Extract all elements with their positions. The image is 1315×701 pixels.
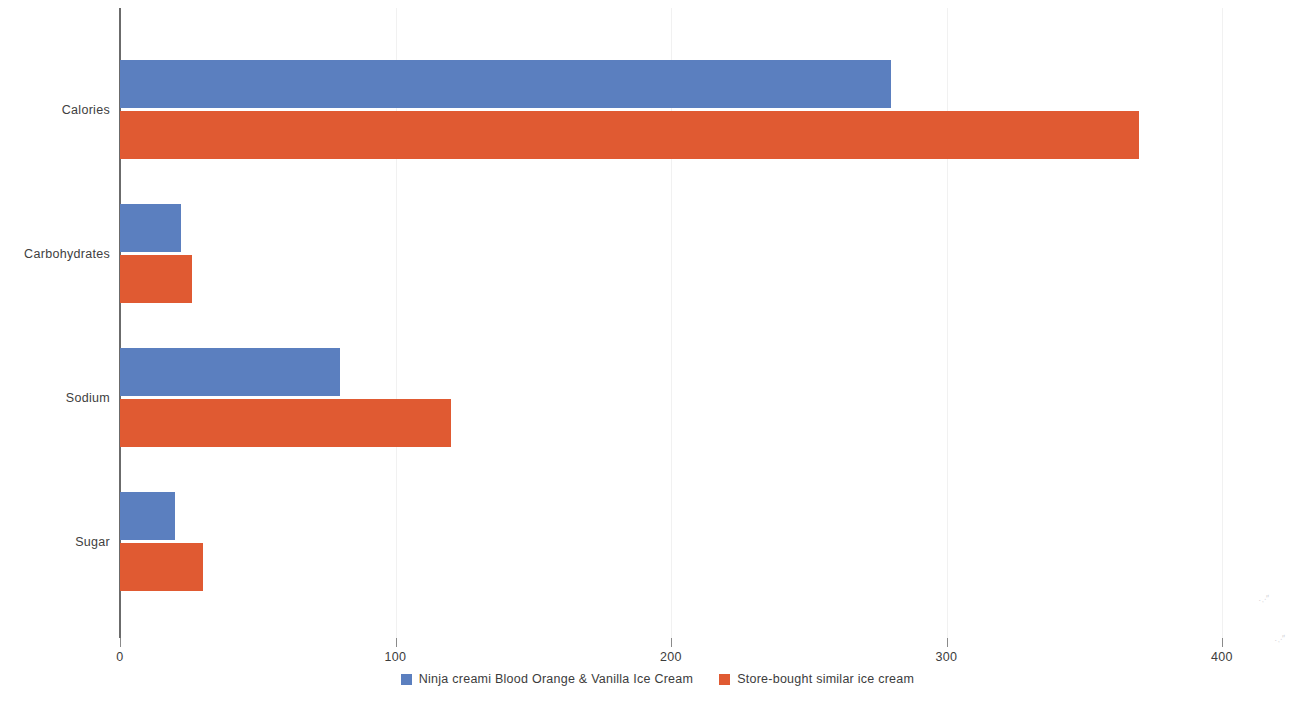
bar-carbohydrates-series2 xyxy=(120,255,192,303)
bar-chart: CaloriesCarbohydratesSodiumSugar 0100200… xyxy=(0,0,1315,701)
legend-label: Store-bought similar ice cream xyxy=(737,672,914,686)
x-axis-tick xyxy=(671,638,672,647)
bar-carbohydrates-series1 xyxy=(120,204,181,252)
legend-swatch-icon xyxy=(401,674,412,685)
x-axis: 0100200300400 xyxy=(120,638,1315,668)
x-axis-tick-label: 400 xyxy=(1211,650,1233,664)
x-axis-tick xyxy=(396,638,397,647)
bar-sodium-series2 xyxy=(120,399,451,447)
bar-group: Carbohydrates xyxy=(120,204,1315,303)
bar-sodium-series1 xyxy=(120,348,340,396)
y-axis-tick-label: Sugar xyxy=(75,535,110,549)
legend-swatch-icon xyxy=(719,674,730,685)
bar-sugar-series2 xyxy=(120,543,203,591)
x-axis-tick-label: 200 xyxy=(660,650,682,664)
bar-sugar-series1 xyxy=(120,492,175,540)
bar-group: Sodium xyxy=(120,348,1315,447)
x-axis-tick xyxy=(947,638,948,647)
legend-label: Ninja creami Blood Orange & Vanilla Ice … xyxy=(419,672,693,686)
x-axis-tick xyxy=(1222,638,1223,647)
x-axis-tick xyxy=(120,638,121,647)
bar-calories-series1 xyxy=(120,60,891,108)
x-axis-tick-label: 0 xyxy=(116,650,123,664)
x-axis-tick-label: 300 xyxy=(936,650,958,664)
x-axis-tick-label: 100 xyxy=(385,650,407,664)
bar-group: Sugar xyxy=(120,492,1315,591)
chart-legend: Ninja creami Blood Orange & Vanilla Ice … xyxy=(0,672,1315,686)
legend-item[interactable]: Ninja creami Blood Orange & Vanilla Ice … xyxy=(401,672,693,686)
bar-group: Calories xyxy=(120,60,1315,159)
y-axis-tick-label: Carbohydrates xyxy=(24,247,110,261)
bar-calories-series2 xyxy=(120,111,1139,159)
plot-area: CaloriesCarbohydratesSodiumSugar xyxy=(120,8,1315,638)
y-axis-tick-label: Sodium xyxy=(66,391,110,405)
legend-item[interactable]: Store-bought similar ice cream xyxy=(719,672,914,686)
y-axis-tick-label: Calories xyxy=(62,103,110,117)
